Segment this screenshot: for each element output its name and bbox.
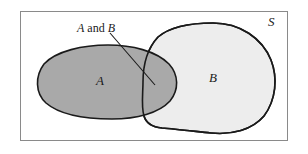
set-a-region — [37, 45, 176, 119]
set-a-label: A — [96, 74, 104, 87]
universal-set-label: S — [268, 15, 275, 28]
intersection-label-b: B — [108, 21, 115, 35]
intersection-label-conjunction: and — [87, 21, 104, 35]
venn-diagram-canvas — [0, 0, 308, 154]
intersection-label: A and B — [77, 22, 115, 34]
venn-diagram-figure: S A B A and B — [0, 0, 308, 154]
set-b-label: B — [209, 71, 217, 84]
